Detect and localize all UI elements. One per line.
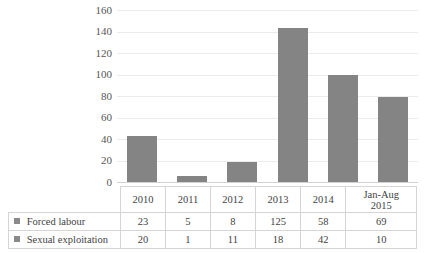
- table-cell: 8: [210, 213, 255, 231]
- bar-segment-forced-labour: [278, 28, 308, 162]
- header-line-1: 2013: [258, 194, 298, 205]
- plot-area: [117, 10, 418, 182]
- header-line-1: 2012: [213, 194, 253, 205]
- table-cell: 1: [166, 231, 211, 249]
- stacked-bar: [227, 162, 257, 182]
- table-cell: 11: [210, 231, 255, 249]
- bar-segment-forced-labour: [227, 162, 257, 171]
- y-axis-tick-label: 160: [96, 5, 113, 16]
- bar-segment-forced-labour: [328, 75, 358, 137]
- table-row: Forced labour 23 5 8 125 58 69: [9, 213, 417, 231]
- legend-square-icon: [14, 236, 20, 242]
- stacked-bar: [378, 97, 408, 182]
- bar-column: [268, 10, 318, 182]
- table-cell: 10: [346, 231, 417, 249]
- table-cell: 42: [301, 231, 346, 249]
- table-row-header: Sexual exploitation: [9, 231, 121, 249]
- bar-column: [167, 10, 217, 182]
- table-column-header: 2014: [301, 187, 346, 213]
- table-cell: 20: [121, 231, 166, 249]
- series-label: Forced labour: [27, 217, 86, 228]
- table-cell: 5: [166, 213, 211, 231]
- bar-column: [217, 10, 267, 182]
- x-axis-line: [117, 182, 418, 183]
- table-cell: 23: [121, 213, 166, 231]
- table-cell: 125: [255, 213, 300, 231]
- header-line-1: 2010: [123, 194, 163, 205]
- series-label: Sexual exploitation: [27, 235, 108, 246]
- y-axis-tick-label: 100: [96, 69, 113, 80]
- table-cell: 18: [255, 231, 300, 249]
- bar-column: [318, 10, 368, 182]
- table-column-header: 2011: [166, 187, 211, 213]
- bar-column: [368, 10, 418, 182]
- stacked-bar: [177, 176, 207, 182]
- y-axis-tick-label: 60: [101, 112, 112, 123]
- bar-segment-forced-labour: [177, 176, 207, 181]
- header-line-2: 2015: [348, 200, 414, 211]
- table-row-header: Forced labour: [9, 213, 121, 231]
- y-axis-tick-label: 40: [101, 134, 112, 145]
- table-column-header: Jan-Aug 2015: [346, 187, 417, 213]
- stacked-bar: [328, 75, 358, 183]
- table-column-header: 2010: [121, 187, 166, 213]
- chart-container: 160 140 120 100 80 60 40 20 0 2010: [0, 0, 425, 253]
- bar-segment-forced-labour: [127, 136, 157, 161]
- y-axis-tick-label: 120: [96, 48, 113, 59]
- y-axis-tick-label: 20: [101, 155, 112, 166]
- table-column-header: 2012: [210, 187, 255, 213]
- table-column-header: 2013: [255, 187, 300, 213]
- table-cell: 58: [301, 213, 346, 231]
- table-corner-cell: [9, 187, 121, 213]
- data-table: 2010 2011 2012 2013 2014: [8, 186, 417, 249]
- header-line-1: Jan-Aug: [348, 189, 414, 200]
- table-header-row: 2010 2011 2012 2013 2014: [9, 187, 417, 213]
- stacked-bar: [127, 136, 157, 182]
- y-axis-tick-label: 140: [96, 26, 113, 37]
- y-axis-tick-labels: 160 140 120 100 80 60 40 20 0: [84, 4, 112, 187]
- bar-segment-forced-labour: [378, 97, 408, 171]
- bar-series-group: [117, 10, 418, 182]
- y-axis-tick-label: 80: [101, 91, 112, 102]
- legend-square-icon: [14, 218, 20, 224]
- header-line-1: 2014: [303, 194, 343, 205]
- table-row: Sexual exploitation 20 1 11 18 42 10: [9, 231, 417, 249]
- header-line-1: 2011: [168, 194, 208, 205]
- plot-wrapper: 160 140 120 100 80 60 40 20 0: [0, 4, 425, 187]
- stacked-bar: [278, 28, 308, 182]
- bar-column: [117, 10, 167, 182]
- table-cell: 69: [346, 213, 417, 231]
